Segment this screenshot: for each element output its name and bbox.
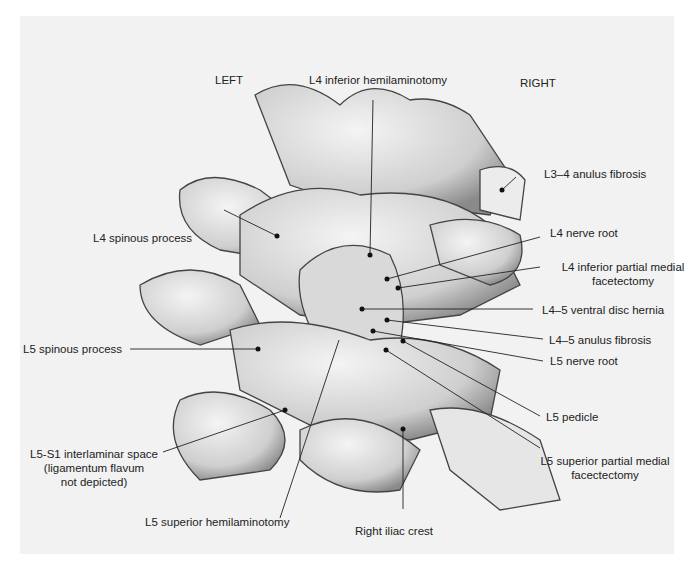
label-l4-facetectomy: L4 inferior partial medialfacetectomy xyxy=(548,260,698,288)
label-l4-5-anulus: L4–5 anulus fibrosis xyxy=(549,333,651,347)
label-l5-facetectomy: L5 superior partial medialfacectectomy xyxy=(530,454,680,482)
label-l4-5-hernia: L4–5 ventral disc hernia xyxy=(542,303,664,317)
label-left: LEFT xyxy=(215,73,243,87)
label-l3-4-anulus: L3–4 anulus fibrosis xyxy=(544,167,646,181)
label-l4-spinous: L4 spinous process xyxy=(93,231,192,245)
label-l5-hemilaminotomy: L5 superior hemilaminotomy xyxy=(145,515,289,529)
label-interlaminar-space: L5-S1 interlaminar space(ligamentum flav… xyxy=(20,447,168,489)
label-l5-spinous: L5 spinous process xyxy=(23,342,122,356)
label-right: RIGHT xyxy=(520,76,556,90)
label-l5-pedicle: L5 pedicle xyxy=(546,410,598,424)
label-l5-nerve-root: L5 nerve root xyxy=(550,354,618,368)
label-iliac-crest: Right iliac crest xyxy=(355,524,433,538)
label-l4-inferior-hemilaminotomy: L4 inferior hemilaminotomy xyxy=(309,73,447,87)
label-l4-nerve-root: L4 nerve root xyxy=(550,226,618,240)
